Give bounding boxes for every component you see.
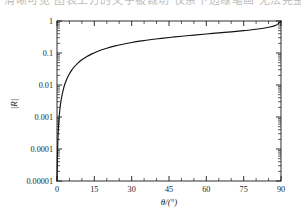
x-axis-major-ticks xyxy=(57,21,281,181)
x-axis-minor-ticks xyxy=(69,21,268,181)
x-axis-tick-labels: 0153045607590 xyxy=(55,185,285,194)
y-axis-minor-ticks xyxy=(57,22,281,171)
x-axis-title: θ/(°) xyxy=(161,197,178,207)
figure-container: 清晰可见 图表上方的文字被裁切 仅余下边缘笔画 无法完整辨识 10.10.010… xyxy=(0,0,301,216)
x-tick-label: 0 xyxy=(55,185,59,194)
x-tick-label: 45 xyxy=(165,185,173,194)
x-tick-label: 60 xyxy=(202,185,210,194)
data-curve-reflectance xyxy=(57,21,281,181)
y-axis-title: |R| xyxy=(9,99,19,109)
y-tick-label: 0.00001 xyxy=(26,177,53,186)
y-tick-label: 0.001 xyxy=(35,113,53,122)
y-tick-label: 0.01 xyxy=(39,81,53,90)
plot-frame xyxy=(57,21,281,181)
y-tick-label: 1 xyxy=(49,17,53,26)
x-tick-label: 15 xyxy=(90,185,98,194)
y-tick-label: 0.1 xyxy=(43,49,53,58)
reflectance-vs-angle-chart: 10.10.010.0010.00010.00001 0153045607590… xyxy=(0,0,301,216)
y-axis-tick-labels: 10.10.010.0010.00010.00001 xyxy=(26,17,53,186)
x-tick-label: 75 xyxy=(240,185,248,194)
y-tick-label: 0.0001 xyxy=(30,145,53,154)
x-tick-label: 90 xyxy=(277,185,285,194)
x-tick-label: 30 xyxy=(128,185,136,194)
y-axis-major-ticks xyxy=(57,21,281,181)
